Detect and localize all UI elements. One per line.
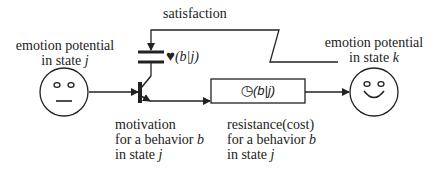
motivation-line1: motivation bbox=[115, 117, 204, 132]
emotion-right-line1: emotion potential bbox=[318, 35, 430, 50]
resistance-line2: for a behavior b bbox=[227, 132, 316, 147]
emotion-right-line2: in state k bbox=[318, 50, 430, 65]
emotion-left-line2: in state j bbox=[10, 53, 120, 68]
motivation-label: motivation for a behavior b in state j bbox=[115, 117, 204, 162]
heart-expression: (b|j) bbox=[175, 49, 199, 64]
state-var-k: k bbox=[393, 50, 399, 65]
heart-icon: ♥ bbox=[166, 48, 175, 64]
resistance-line3: in state j bbox=[227, 147, 316, 162]
behavior-var-b: b bbox=[197, 132, 204, 147]
resistance-line3-prefix: in state bbox=[227, 147, 271, 162]
resistance-line2-prefix: for a behavior bbox=[227, 132, 309, 147]
state-var-j: j bbox=[271, 147, 275, 162]
emotion-potential-left-label: emotion potential in state j bbox=[10, 38, 120, 68]
resistance-value-label: ◷(b|j) bbox=[211, 83, 305, 98]
resistance-label: resistance(cost) for a behavior b in sta… bbox=[227, 117, 316, 162]
neutral-face-icon bbox=[40, 68, 88, 116]
transistor-icon bbox=[140, 76, 151, 103]
emotion-potential-right-label: emotion potential in state k bbox=[318, 35, 430, 65]
emotion-left-line1: emotion potential bbox=[10, 38, 120, 53]
resistance-line1: resistance(cost) bbox=[227, 117, 316, 132]
satisfaction-value-label: ♥(b|j) bbox=[166, 49, 199, 64]
satisfaction-label: satisfaction bbox=[163, 6, 227, 21]
behavior-var-b: b bbox=[309, 132, 316, 147]
state-var-j: j bbox=[159, 147, 163, 162]
smiling-face-icon bbox=[350, 68, 398, 116]
capacitor-icon bbox=[138, 52, 164, 62]
clock-icon: ◷ bbox=[241, 83, 253, 98]
emotion-left-prefix: in state bbox=[41, 53, 85, 68]
emotion-right-prefix: in state bbox=[349, 50, 393, 65]
motivation-line3-prefix: in state bbox=[115, 147, 159, 162]
motivation-line3: in state j bbox=[115, 147, 204, 162]
clock-expression: (b|j) bbox=[253, 83, 275, 98]
motivation-line2: for a behavior b bbox=[115, 132, 204, 147]
state-var-j: j bbox=[85, 53, 89, 68]
motivation-line2-prefix: for a behavior bbox=[115, 132, 197, 147]
